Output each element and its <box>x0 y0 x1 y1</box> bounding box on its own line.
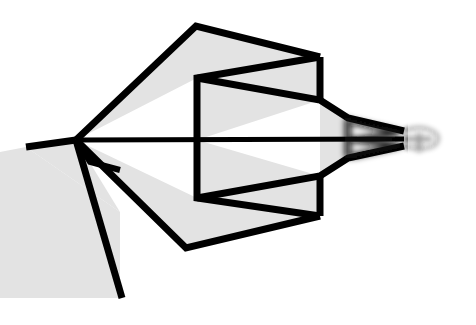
geometric-line-drawing <box>0 0 476 325</box>
tail-fade-overlay <box>408 86 476 204</box>
